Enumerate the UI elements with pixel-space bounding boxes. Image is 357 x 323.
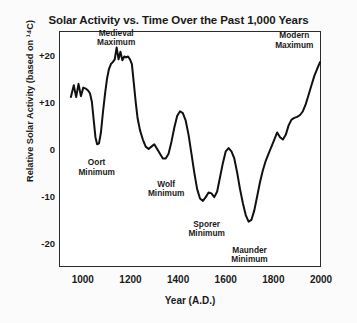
x-tick-label: 1600 [202, 274, 250, 285]
y-tick-label: 0 [21, 144, 55, 155]
solar-activity-line [71, 48, 320, 222]
annotation-oort-minimum: Oort Minimum [78, 158, 114, 177]
y-axis-tick-labels: +20+100-10-20 [0, 31, 55, 267]
chart-figure: Solar Activity vs. Time Over the Past 1,… [0, 0, 357, 323]
x-axis-tick-labels: 100012001400160018002000 [59, 274, 321, 288]
y-tick-label: -20 [21, 238, 55, 249]
annotation-modern-maximum: Modern Maximum [275, 31, 313, 50]
annotation-medieval-maximum: Medieval Maximum [97, 29, 135, 48]
x-tick-label: 1000 [59, 274, 107, 285]
x-tick-label: 1200 [106, 274, 154, 285]
x-tick-label: 1400 [154, 274, 202, 285]
x-tick-label: 1800 [249, 274, 297, 285]
chart-title: Solar Activity vs. Time Over the Past 1,… [0, 14, 357, 26]
annotation-sporer-minimum: Sporer Minimum [188, 220, 224, 239]
y-tick-label: +20 [21, 49, 55, 60]
annotation-wolf-minimum: Wolf Minimum [148, 180, 184, 199]
annotation-maunder-minimum: Maunder Minimum [231, 246, 267, 265]
y-tick-label: +10 [21, 96, 55, 107]
x-axis-title: Year (A.D.) [59, 295, 321, 306]
x-tick-label: 2000 [297, 274, 345, 285]
y-tick-label: -10 [21, 191, 55, 202]
